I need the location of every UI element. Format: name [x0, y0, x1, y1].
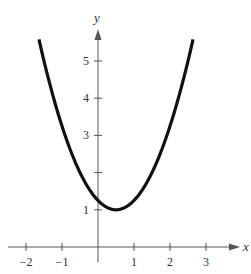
parabola-curve	[39, 39, 193, 209]
x-tick-label: 2	[167, 255, 173, 269]
x-tick-label: −1	[56, 255, 69, 269]
y-axis-arrow-icon	[95, 29, 102, 40]
y-tick-label: 4	[83, 91, 89, 105]
y-tick-label: 3	[83, 128, 89, 142]
x-tick-label: 3	[203, 255, 209, 269]
y-axis-label: y	[92, 10, 100, 25]
y-tick-label: 5	[83, 54, 89, 68]
x-tick-label: 1	[131, 255, 137, 269]
y-tick-label: 1	[83, 203, 89, 217]
x-tick-label: −2	[20, 255, 33, 269]
axes	[8, 29, 240, 262]
x-axis-label: x	[242, 239, 249, 254]
parabola-chart: −2−1123 1345 x y	[0, 0, 251, 274]
x-axis-arrow-icon	[229, 244, 240, 251]
